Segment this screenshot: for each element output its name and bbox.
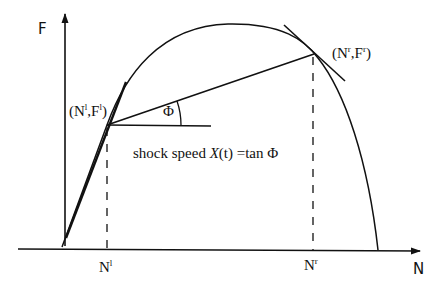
angle-label: Φ (163, 104, 174, 119)
horizontal-reference-line (107, 125, 211, 126)
angle-arc (177, 101, 181, 125)
right-point-label: (Nr,Fr) (332, 45, 371, 61)
right-tick-label: Nr (304, 257, 318, 273)
left-tick-label: Nl (99, 259, 112, 275)
f-axis-label: F (38, 22, 47, 37)
n-axis (18, 249, 420, 251)
left-point-label: (Nl,Fl) (69, 103, 107, 119)
fundamental-diagram: F N (Nl,Fl) (Nr,Fr) Nl Nr Φ shock speed … (0, 0, 438, 290)
flow-density-curve (62, 24, 378, 250)
shock-speed-annotation: shock speed X(t) =tan Φ (133, 146, 278, 161)
shock-chord-line (107, 54, 314, 125)
n-axis-label: N (413, 262, 424, 277)
